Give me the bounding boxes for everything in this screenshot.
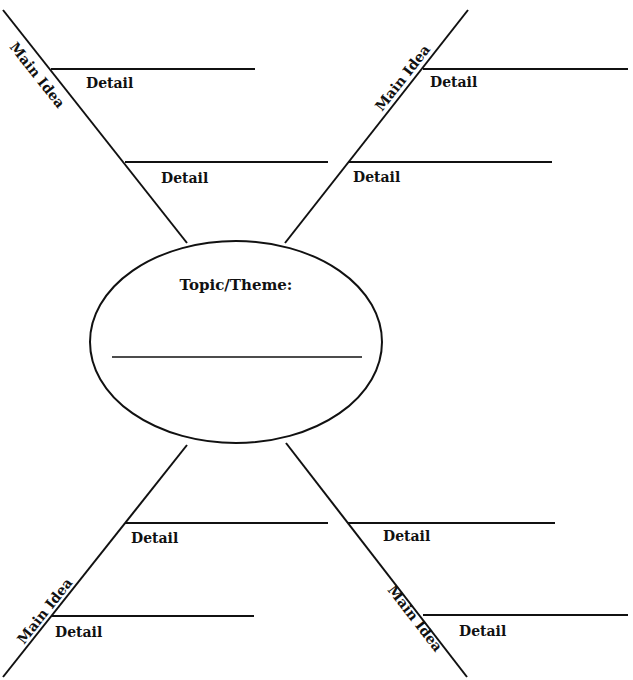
main-idea-label-bottom-right: Main Idea [385,582,446,655]
main-idea-line-bottom-left[interactable] [3,445,187,677]
topic-label: Topic/Theme: [180,276,293,294]
branch-bottom-right: Main Idea Detail Detail [286,443,628,677]
detail-label-top-right-1: Detail [430,74,477,90]
detail-label-bottom-left-1: Detail [131,530,178,546]
topic-center: Topic/Theme: [90,241,382,443]
detail-label-top-left-2: Detail [161,170,208,186]
detail-label-top-right-2: Detail [353,169,400,185]
main-idea-label-top-left: Main Idea [7,39,69,111]
detail-label-bottom-left-2: Detail [55,624,102,640]
topic-ellipse [90,241,382,443]
main-idea-label-top-right: Main Idea [372,42,434,114]
main-idea-line-top-left[interactable] [3,10,187,243]
detail-label-bottom-right-1: Detail [383,528,430,544]
spider-map-diagram: Topic/Theme: Main Idea Detail Detail Mai… [0,0,633,680]
main-idea-line-top-right[interactable] [285,10,468,243]
branch-top-right: Main Idea Detail Detail [285,10,628,243]
branch-top-left: Main Idea Detail Detail [3,10,328,243]
detail-label-top-left-1: Detail [86,75,133,91]
detail-label-bottom-right-2: Detail [459,623,506,639]
branch-bottom-left: Main Idea Detail Detail [3,445,328,677]
